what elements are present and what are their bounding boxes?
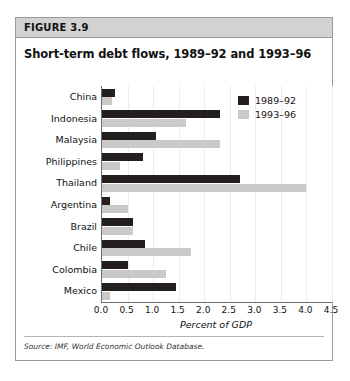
x-tick-label: 1.0: [145, 305, 159, 315]
legend-item-1993-96: 1993–96: [238, 108, 296, 120]
bar-series-2: [102, 205, 128, 213]
bar-series-1: [102, 175, 240, 183]
x-tick-label: 4.0: [298, 305, 312, 315]
legend-label-1989-92: 1989–92: [255, 95, 296, 106]
category-label: Chile: [73, 237, 97, 259]
bar-series-1: [102, 261, 128, 269]
bar-series-1: [102, 89, 115, 97]
chart-plot-region: ChinaIndonesiaMalaysiaPhilippinesThailan…: [16, 70, 332, 332]
source-divider: [24, 336, 324, 337]
figure-header-bar: FIGURE 3.9: [16, 18, 332, 38]
source-note: Source: IMF, World Economic Outlook Data…: [24, 342, 204, 351]
bar-series-1: [102, 197, 110, 205]
x-tick-label: 1.5: [170, 305, 184, 315]
bar-series-2: [102, 248, 191, 256]
chart-row: Chile: [102, 237, 332, 259]
bar-series-1: [102, 110, 220, 118]
x-tick-label: 2.5: [222, 305, 236, 315]
figure-number-label: FIGURE 3.9: [24, 22, 89, 33]
x-tick-label: 2.0: [196, 305, 210, 315]
x-tick-label: 3.0: [247, 305, 261, 315]
figure-container: FIGURE 3.9 Short-term debt flows, 1989–9…: [15, 17, 333, 361]
chart-row: Argentina: [102, 194, 332, 216]
chart-row: Brazil: [102, 216, 332, 238]
chart-row: Colombia: [102, 259, 332, 281]
chart-row: Mexico: [102, 280, 332, 302]
legend-swatch-1989-92: [238, 96, 249, 105]
bar-series-2: [102, 119, 186, 127]
x-tick-label: 3.5: [273, 305, 287, 315]
legend-label-1993-96: 1993–96: [255, 109, 296, 120]
bar-series-2: [102, 162, 120, 170]
x-axis-tick-labels: 0.00.51.01.52.02.53.03.54.04.5: [101, 305, 331, 319]
bar-series-1: [102, 132, 156, 140]
bar-series-2: [102, 140, 220, 148]
chart-row: China: [102, 86, 332, 108]
category-label: Colombia: [52, 259, 97, 281]
bar-series-1: [102, 240, 145, 248]
x-tick-label: 4.5: [324, 305, 338, 315]
grid-line: [332, 86, 333, 302]
chart-row: Philippines: [102, 151, 332, 173]
plot-area: ChinaIndonesiaMalaysiaPhilippinesThailan…: [101, 86, 332, 302]
category-label: Brazil: [70, 216, 97, 238]
category-label: Philippines: [46, 151, 97, 173]
chart-row: Thailand: [102, 172, 332, 194]
chart-row: Malaysia: [102, 129, 332, 151]
category-label: Indonesia: [51, 108, 97, 130]
bar-series-1: [102, 283, 176, 291]
category-label: Mexico: [64, 280, 97, 302]
x-axis-line: [101, 302, 332, 303]
category-label: Argentina: [51, 194, 97, 216]
category-label: China: [70, 86, 97, 108]
bar-series-1: [102, 153, 143, 161]
category-label: Malaysia: [55, 129, 97, 151]
bar-series-1: [102, 218, 133, 226]
bar-series-2: [102, 270, 166, 278]
legend-swatch-1993-96: [238, 110, 249, 119]
category-label: Thailand: [56, 172, 97, 194]
x-axis-title: Percent of GDP: [101, 319, 331, 330]
x-tick-label: 0.5: [119, 305, 133, 315]
x-tick-label: 0.0: [94, 305, 108, 315]
bar-series-2: [102, 184, 306, 192]
figure-title: Short-term debt flows, 1989–92 and 1993–…: [16, 38, 332, 61]
chart-row: Indonesia: [102, 108, 332, 130]
bar-series-2: [102, 292, 110, 300]
chart-legend: 1989–92 1993–96: [238, 94, 296, 122]
bar-series-2: [102, 227, 133, 235]
legend-item-1989-92: 1989–92: [238, 94, 296, 106]
bar-series-2: [102, 97, 112, 105]
